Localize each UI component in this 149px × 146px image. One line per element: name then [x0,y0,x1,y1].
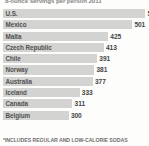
bar-value-label: 300 [71,111,82,120]
table-row: U.S. 52 [3,9,149,18]
table-row: Norway 381 [3,65,149,74]
bar-category-label: U.S. [6,9,18,18]
chart-title: 8-ounce servings per person 2011 [5,0,147,5]
bar-value-label: 377 [95,77,106,86]
chart-title-strip: 8-ounce servings per person 2011 [5,0,147,5]
bar-category-label: Czech Republic [6,43,52,52]
table-row: Iceland 333 [3,88,149,97]
bar-value-label: 391 [99,54,110,63]
table-row: Chile 391 [3,54,149,63]
bar-category-label: Australia [6,77,33,86]
bar-category-label: Mexico [6,20,27,29]
table-row: Australia 377 [3,77,149,86]
bar-value-label: 311 [75,99,86,108]
bar-rows: U.S. 52 Mexico 501 Malta 425 Czech Repub… [3,9,149,129]
table-row: Czech Republic 413 [3,43,149,52]
soda-consumption-bar-chart: 8-ounce servings per person 2011 U.S. 52… [0,0,149,146]
bar [3,9,145,18]
bar-value-label: 413 [106,43,117,52]
bar-value-label: 333 [82,88,93,97]
table-row: Canada 311 [3,99,149,108]
bar-category-label: Iceland [6,88,27,97]
bar-value-label: 52 [148,9,149,18]
chart-footnote: *INCLUDES REGULAR AND LOW-CALORIE SODAS [3,137,148,143]
bar-value-label: 381 [96,65,107,74]
bar-category-label: Norway [6,65,28,74]
bar-category-label: Belgium [6,111,31,120]
bar-category-label: Canada [6,99,28,108]
table-row: Belgium 300 [3,111,149,120]
bar-value-label: 501 [134,20,145,29]
bar-category-label: Chile [6,54,21,63]
table-row: Mexico 501 [3,20,149,29]
bar-value-label: 425 [110,32,121,41]
table-row: Malta 425 [3,32,149,41]
bar-category-label: Malta [6,32,22,41]
